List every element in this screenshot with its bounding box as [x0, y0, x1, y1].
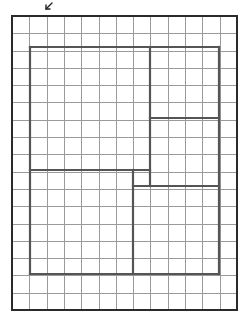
grid-floorplan-diagram [0, 0, 252, 331]
grid-lines [12, 16, 237, 310]
outer-border [12, 16, 237, 310]
room-partitions [30, 47, 219, 274]
arrow-down-left-icon [46, 3, 52, 9]
